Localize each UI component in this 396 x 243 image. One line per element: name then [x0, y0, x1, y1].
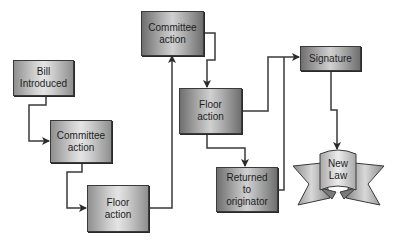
edge-floor2-returned	[207, 133, 245, 166]
node-floor-action-2: Floor action	[179, 88, 242, 134]
edge-returned-signature	[277, 57, 284, 190]
edge-floor2-signature	[241, 57, 299, 111]
edge-committee2-floor2	[203, 33, 215, 87]
edge-bill-committee1	[29, 95, 49, 141]
node-new-law: New Law	[320, 158, 356, 182]
node-committee-action-1: Committee action	[50, 120, 112, 163]
node-floor-action-1: Floor action	[87, 185, 149, 232]
edge-committee1-floor1	[67, 162, 86, 208]
edge-floor1-committee2	[148, 56, 172, 208]
node-committee-action-2: Committee action	[141, 11, 204, 56]
node-signature: Signature	[300, 46, 361, 71]
node-bill-introduced: Bill Introduced	[13, 60, 74, 96]
node-returned-to-originator: Returned to originator	[216, 167, 278, 212]
edge-signature-newlaw	[331, 70, 337, 149]
